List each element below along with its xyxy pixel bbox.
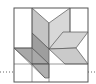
quilt-star-diagram [0, 0, 96, 84]
